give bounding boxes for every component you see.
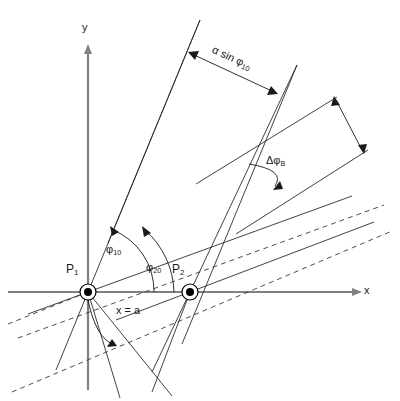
angle-label-phi20: φ20 [146,262,161,273]
angle-arcs [110,226,174,292]
beam-left-edge-outer [182,65,297,344]
ray-p2-lower-left [152,292,190,392]
lower-arc [88,300,113,344]
point-label-p2-base: P [172,262,180,276]
dimension-right-arrowhead-end [358,144,367,154]
point-label-p2-sub: 2 [180,268,184,277]
ray-pencil-p1 [28,20,352,398]
beam-right-edge-lower [236,150,368,234]
y-axis-arrowhead [84,44,92,54]
x-axis-arrowhead [352,288,362,296]
y-axis-label: y [82,22,88,33]
baseline-label: x = a [116,305,140,316]
ray-p1-beam-opposite [28,292,88,314]
point-label-p2: P2 [172,263,184,275]
angle-label-phi20-sub: 20 [153,266,161,275]
geometry-diagram: y x P1 P2 φ10 φ20 α sin φ10 ΔφB x = a [0,0,400,401]
ray-p2-phi20 [190,65,297,292]
point-p2-dot [186,288,194,296]
point-label-p1-base: P [66,262,74,276]
rotation-label-delta-sub: B [280,159,285,168]
dashed-line-p2 [12,231,392,392]
delta-phi-b-arc [249,164,278,186]
dimension-right-beam-width [331,96,367,154]
axis-group [8,44,362,390]
ray-p1-beam [88,196,352,292]
rotation-label-delta-phi-b: ΔφB [266,155,285,166]
delta-phi-b-arrowhead [273,181,283,190]
lower-arc-arrowhead [107,339,117,347]
point-p1-dot [84,288,92,296]
beam-right-edge-upper [196,97,337,184]
x-axis-label: x [364,285,370,296]
angle-label-phi10-sub: 10 [113,248,121,257]
dimension-arrowhead-end [267,86,278,95]
dimension-arrowhead-start [188,51,199,60]
angle-label-phi10: φ10 [106,244,121,255]
rotation-label-delta-base: Δφ [266,154,280,166]
dimension-line-right [336,100,362,150]
dashed-reference-lines [8,205,392,392]
diagram-canvas [0,0,400,401]
beam-left-edge-inner [108,20,200,243]
beam-edges-left [108,20,297,344]
point-label-p1: P1 [66,263,78,275]
point-label-p1-sub: 1 [74,268,78,277]
ray-p1-phi10-opposite [56,292,88,370]
angle-arc-phi20-arrowhead [142,226,151,237]
